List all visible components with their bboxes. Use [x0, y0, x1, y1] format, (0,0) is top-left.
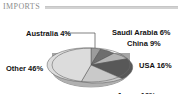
pie-label-australia: Australia 4% — [26, 30, 71, 38]
pie-label-saudi-arabia: Saudi Arabia 6% — [112, 29, 171, 37]
pie-slice-other — [47, 48, 91, 82]
header-divider — [45, 6, 178, 9]
pie-label-china: China 9% — [127, 40, 161, 48]
chart-screenshot: IMPORTS — [0, 0, 180, 94]
page-title: IMPORTS — [0, 3, 40, 11]
pie-chart: Saudi Arabia 6% China 9% USA 16% Japan 1… — [0, 13, 180, 94]
chart-header: IMPORTS — [0, 0, 180, 14]
pie-label-other: Other 46% — [6, 65, 43, 73]
pie-label-japan: Japan 19% — [117, 92, 156, 94]
pie-label-usa: USA 16% — [139, 62, 172, 70]
pie-chart-svg — [0, 13, 180, 94]
